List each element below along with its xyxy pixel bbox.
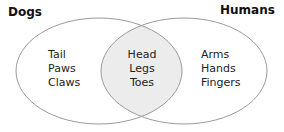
humans-label: Humans <box>220 3 275 17</box>
humans-items: Arms Hands Fingers <box>201 48 241 90</box>
list-item: Legs <box>122 62 162 76</box>
list-item: Claws <box>48 76 80 90</box>
list-item: Tail <box>48 48 80 62</box>
list-item: Hands <box>201 62 241 76</box>
list-item: Head <box>122 48 162 62</box>
list-item: Toes <box>122 76 162 90</box>
list-item: Arms <box>201 48 241 62</box>
intersection-items: Head Legs Toes <box>122 48 162 90</box>
dogs-label: Dogs <box>8 5 42 19</box>
list-item: Fingers <box>201 76 241 90</box>
list-item: Paws <box>48 62 80 76</box>
dogs-items: Tail Paws Claws <box>48 48 80 90</box>
